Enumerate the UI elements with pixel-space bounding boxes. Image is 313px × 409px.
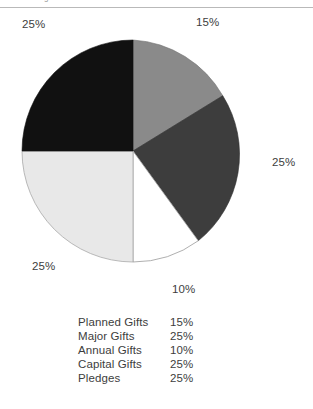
pie-slices: [22, 40, 240, 262]
legend-value: 10%: [170, 344, 193, 356]
header-clipped-caption: Figure 3: Sources of Revenue: [0, 0, 313, 7]
legend-label: Planned Gifts: [78, 316, 170, 328]
legend-row: Annual Gifts 10%: [78, 344, 238, 358]
legend-row: Pledges 25%: [78, 372, 238, 386]
legend-label: Major Gifts: [78, 330, 170, 342]
pie-slice-capital-gifts[interactable]: [22, 151, 133, 262]
legend: Planned Gifts 15% Major Gifts 25% Annual…: [78, 316, 238, 386]
legend-label: Pledges: [78, 372, 170, 384]
callout-annual-gifts: 10%: [172, 283, 195, 295]
pie-slice-pledges[interactable]: [22, 40, 133, 151]
legend-label: Capital Gifts: [78, 358, 170, 370]
legend-row: Planned Gifts 15%: [78, 316, 238, 330]
legend-row: Major Gifts 25%: [78, 330, 238, 344]
legend-row: Capital Gifts 25%: [78, 358, 238, 372]
callout-pledges: 25%: [22, 18, 45, 30]
legend-label: Annual Gifts: [78, 344, 170, 356]
callout-major-gifts: 25%: [272, 156, 295, 168]
callout-capital-gifts: 25%: [32, 260, 55, 272]
legend-value: 25%: [170, 372, 193, 384]
pie-chart: 25% 15% 25% 25% 10%: [0, 8, 313, 308]
callout-planned-gifts: 15%: [196, 16, 219, 28]
header-caption-text: Figure 3: Sources of Revenue: [37, 0, 149, 2]
legend-value: 25%: [170, 330, 193, 342]
legend-value: 15%: [170, 316, 193, 328]
legend-value: 25%: [170, 358, 193, 370]
